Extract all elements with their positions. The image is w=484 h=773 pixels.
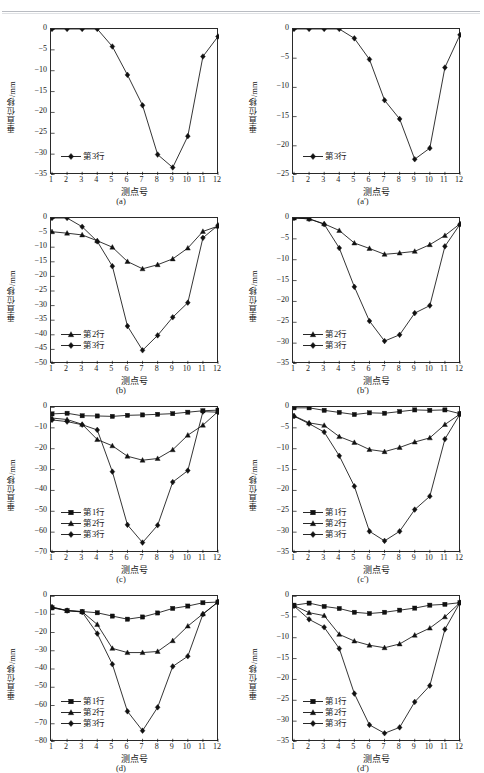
x-tick-label: 2 xyxy=(58,176,74,184)
x-tick-label: 9 xyxy=(406,743,422,751)
y-tick-label: 0 xyxy=(24,591,47,599)
x-tick-label: 2 xyxy=(58,365,74,373)
x-tick-label: 4 xyxy=(330,176,346,184)
x-tick-label: 9 xyxy=(164,554,180,562)
x-tick-label: 3 xyxy=(315,554,331,562)
x-tick-label: 5 xyxy=(345,365,361,373)
x-tick-label: 3 xyxy=(73,365,89,373)
legend-c: 第1行第2行第3行 xyxy=(60,507,105,540)
legend-item: 第3行 xyxy=(302,529,347,540)
diamond-marker-icon xyxy=(302,718,324,729)
x-tick-label: 11 xyxy=(436,176,452,184)
x-tick-label: 12 xyxy=(451,554,467,562)
legend-b: 第2行第3行 xyxy=(60,329,105,351)
y-tick-label: −10 xyxy=(266,255,289,263)
y-tick-label: −20 xyxy=(24,271,47,279)
y-tick-label: −20 xyxy=(266,674,289,682)
triangle-marker-icon xyxy=(302,329,324,340)
x-tick-label: 5 xyxy=(345,554,361,562)
y-tick-label: −5 xyxy=(24,45,47,53)
triangle-marker-icon xyxy=(60,329,82,340)
diamond-marker-icon xyxy=(60,340,82,351)
y-tick-label: −20 xyxy=(24,444,47,452)
y-tick-label: −10 xyxy=(24,66,47,74)
x-tick-label: 12 xyxy=(451,365,467,373)
y-tick-label: −25 xyxy=(24,286,47,294)
x-tick-label: 7 xyxy=(376,554,392,562)
y-tick-label: −5 xyxy=(266,612,289,620)
x-tick-label: 10 xyxy=(421,365,437,373)
x-tick-label: 6 xyxy=(118,176,134,184)
legend-item: 第2行 xyxy=(60,518,105,529)
x-tick-label: 2 xyxy=(58,554,74,562)
x-tick-label: 6 xyxy=(360,743,376,751)
page-header-text xyxy=(180,0,350,9)
legend-label: 第3行 xyxy=(83,530,105,539)
legend-a-prime: 第3行 xyxy=(302,151,347,162)
series-a-1 xyxy=(51,29,219,170)
x-tick-label: 2 xyxy=(300,176,316,184)
y-axis-label: 垂直位移/mm xyxy=(250,258,259,322)
y-tick-label: −30 xyxy=(266,338,289,346)
x-tick-label: 8 xyxy=(149,365,165,373)
x-tick-label: 1 xyxy=(285,554,301,562)
x-tick-label: 8 xyxy=(391,365,407,373)
legend-item: 第2行 xyxy=(302,707,347,718)
legend-b-prime: 第2行第3行 xyxy=(302,329,347,351)
legend-item: 第3行 xyxy=(302,718,347,729)
x-tick-label: 7 xyxy=(376,176,392,184)
y-tick-label: −20 xyxy=(266,485,289,493)
x-tick-label: 10 xyxy=(179,554,195,562)
x-tick-label: 1 xyxy=(285,365,301,373)
x-tick-label: 6 xyxy=(118,554,134,562)
x-tick-label: 7 xyxy=(134,176,150,184)
y-axis-label: 垂直位移/mm xyxy=(8,258,17,322)
legend-label: 第2行 xyxy=(83,330,105,339)
y-tick-label: −25 xyxy=(266,506,289,514)
y-tick-label: −30 xyxy=(266,716,289,724)
legend-label: 第3行 xyxy=(83,341,105,350)
triangle-marker-icon xyxy=(302,518,324,529)
legend-label: 第1行 xyxy=(325,508,347,517)
x-tick-label: 10 xyxy=(421,554,437,562)
triangle-marker-icon xyxy=(302,707,324,718)
legend-item: 第2行 xyxy=(60,707,105,718)
y-tick-label: −20 xyxy=(266,296,289,304)
series-c-prime-2 xyxy=(293,411,461,453)
x-tick-label: 3 xyxy=(73,743,89,751)
y-tick-label: −15 xyxy=(266,654,289,662)
x-tick-label: 1 xyxy=(285,176,301,184)
y-tick-label: −5 xyxy=(266,423,289,431)
x-tick-label: 5 xyxy=(103,365,119,373)
x-tick-label: 6 xyxy=(118,743,134,751)
x-tick-label: 2 xyxy=(300,743,316,751)
chart-cell-d: 0−10−20−30−40−50−60−70−80123456789101112… xyxy=(0,583,242,772)
x-tick-label: 11 xyxy=(194,554,210,562)
y-tick-label: −30 xyxy=(266,527,289,535)
chart-a-prime: 0−5−10−15−20−25123456789101112垂直位移/mm测点号… xyxy=(242,16,484,205)
legend-item: 第2行 xyxy=(302,329,347,340)
y-tick-label: −30 xyxy=(24,465,47,473)
chart-cell-c: 0−10−20−30−40−50−60−70123456789101112垂直位… xyxy=(0,394,242,583)
legend-d: 第1行第2行第3行 xyxy=(60,696,105,729)
legend-item: 第2行 xyxy=(302,518,347,529)
legend-c-prime: 第1行第2行第3行 xyxy=(302,507,347,540)
x-tick-label: 4 xyxy=(330,743,346,751)
legend-d-prime: 第1行第2行第3行 xyxy=(302,696,347,729)
y-tick-label: −50 xyxy=(24,682,47,690)
legend-item: 第3行 xyxy=(60,151,105,162)
x-tick-label: 7 xyxy=(134,743,150,751)
y-tick-label: −70 xyxy=(24,719,47,727)
x-tick-label: 5 xyxy=(345,176,361,184)
x-tick-label: 12 xyxy=(209,365,225,373)
legend-label: 第2行 xyxy=(83,519,105,528)
x-tick-label: 1 xyxy=(43,365,59,373)
x-tick-label: 6 xyxy=(118,365,134,373)
x-tick-label: 7 xyxy=(134,554,150,562)
series-b-prime-2 xyxy=(293,218,461,344)
y-tick-label: −30 xyxy=(24,301,47,309)
x-tick-label: 6 xyxy=(360,176,376,184)
legend-label: 第2行 xyxy=(325,708,347,717)
x-tick-label: 12 xyxy=(451,743,467,751)
legend-item: 第3行 xyxy=(302,340,347,351)
